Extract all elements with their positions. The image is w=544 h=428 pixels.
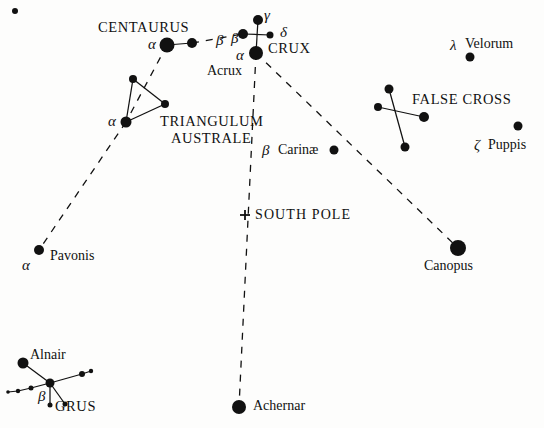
label-velorum: Velorum bbox=[465, 37, 513, 51]
label-south-pole: SOUTH POLE bbox=[255, 208, 351, 222]
label-lambda-velorum-label: λ bbox=[450, 38, 457, 53]
star-alpha-pavonis bbox=[34, 245, 44, 255]
star-grus-left-2 bbox=[16, 389, 20, 393]
star-grus-center bbox=[46, 379, 55, 388]
star-alpha-trianguli-australis bbox=[121, 117, 132, 128]
star-grus-left-3 bbox=[6, 390, 10, 394]
label-delta-crux-label: δ bbox=[280, 25, 287, 40]
triangulum-to-pavonis bbox=[39, 122, 126, 250]
star-achernar bbox=[232, 400, 246, 414]
star-false-cross-bottom bbox=[401, 143, 410, 152]
label-acrux: Acrux bbox=[207, 64, 242, 78]
star-zeta-puppis bbox=[514, 122, 523, 131]
star-alpha-centauri bbox=[160, 38, 175, 53]
star-alnair bbox=[18, 358, 29, 369]
triangulum-left-side bbox=[126, 79, 133, 122]
label-triangulum-australe-line2: AUSTRALE bbox=[171, 131, 252, 146]
label-grus: GRUS bbox=[55, 399, 96, 414]
star-triangulum-top bbox=[129, 75, 137, 83]
label-carinae: Carinæ bbox=[278, 143, 318, 157]
star-beta-centauri bbox=[187, 38, 197, 48]
label-canopus: Canopus bbox=[424, 259, 473, 273]
dashed-constellation-lines bbox=[39, 34, 458, 407]
label-centaurus: CENTAURUS bbox=[98, 20, 189, 35]
star-grus-right-tip bbox=[89, 369, 93, 373]
label-beta-grus-label: β bbox=[38, 389, 45, 404]
label-achernar: Achernar bbox=[253, 399, 305, 413]
label-alpha-pavonis-label: α bbox=[22, 258, 30, 273]
acrux-to-achernar-south-pole-line bbox=[239, 53, 256, 407]
label-beta-crux-label: β bbox=[231, 31, 238, 46]
label-zeta-puppis-label: ζ bbox=[474, 138, 480, 153]
star-delta-crux bbox=[267, 32, 274, 39]
label-false-cross: FALSE CROSS bbox=[412, 92, 511, 107]
label-triangulum-australe-line1: TRIANGULUM bbox=[160, 114, 263, 129]
star-false-cross-top bbox=[385, 85, 394, 94]
false-cross-diagonal-1 bbox=[389, 89, 405, 147]
star-grus-left-1 bbox=[29, 386, 34, 391]
label-beta-centauri-label: β bbox=[216, 33, 223, 48]
label-alnair: Alnair bbox=[30, 348, 66, 362]
label-pavonis: Pavonis bbox=[50, 249, 94, 263]
grus-right-arm bbox=[50, 374, 82, 383]
star-false-cross-left bbox=[374, 103, 382, 111]
star-lambda-velorum bbox=[466, 53, 475, 62]
star-alpha-crux-acrux bbox=[249, 46, 263, 60]
label-alpha-crux-label: α bbox=[236, 48, 244, 63]
star-chart: CENTAURUSCRUXTRIANGULUMAUSTRALEFALSE CRO… bbox=[0, 0, 544, 428]
star-triangulum-right bbox=[161, 100, 169, 108]
label-puppis: Puppis bbox=[488, 138, 526, 152]
star-beta-carinae bbox=[330, 146, 339, 155]
false-cross-diagonal-2 bbox=[378, 107, 424, 117]
label-beta-carinae-label: β bbox=[262, 143, 269, 158]
label-crux: CRUX bbox=[268, 41, 311, 56]
star-grus-leg-left bbox=[48, 403, 53, 408]
star-corner-dot bbox=[12, 8, 18, 14]
star-false-cross-right bbox=[419, 112, 429, 122]
label-gamma-crux-label: γ bbox=[264, 8, 270, 23]
star-canopus bbox=[450, 240, 466, 256]
star-gamma-crux bbox=[253, 15, 263, 25]
label-alpha-trianguli-label: α bbox=[108, 114, 116, 129]
label-alpha-centauri-label: α bbox=[148, 37, 156, 52]
star-grus-upper-right bbox=[79, 371, 85, 377]
star-beta-crux bbox=[238, 29, 248, 39]
